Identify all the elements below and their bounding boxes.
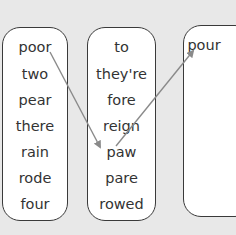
word-there[interactable]: there xyxy=(3,119,67,134)
word-rain[interactable]: rain xyxy=(3,145,67,160)
word-to[interactable]: to xyxy=(88,40,155,55)
column-left: poor two pear there rain rode four xyxy=(2,27,68,221)
word-rode[interactable]: rode xyxy=(3,171,67,186)
word-four[interactable]: four xyxy=(3,197,67,212)
word-rowed[interactable]: rowed xyxy=(88,197,155,212)
word-poor[interactable]: poor xyxy=(3,40,67,55)
word-theyre[interactable]: they're xyxy=(88,67,155,82)
column-middle: to they're fore reign paw pare rowed xyxy=(87,27,156,221)
column-right: pour xyxy=(183,25,236,217)
word-pear[interactable]: pear xyxy=(3,93,67,108)
word-reign[interactable]: reign xyxy=(88,119,155,134)
word-two[interactable]: two xyxy=(3,67,67,82)
word-fore[interactable]: fore xyxy=(88,93,155,108)
word-paw[interactable]: paw xyxy=(88,145,155,160)
word-pare[interactable]: pare xyxy=(88,171,155,186)
word-pour[interactable]: pour xyxy=(186,38,222,53)
